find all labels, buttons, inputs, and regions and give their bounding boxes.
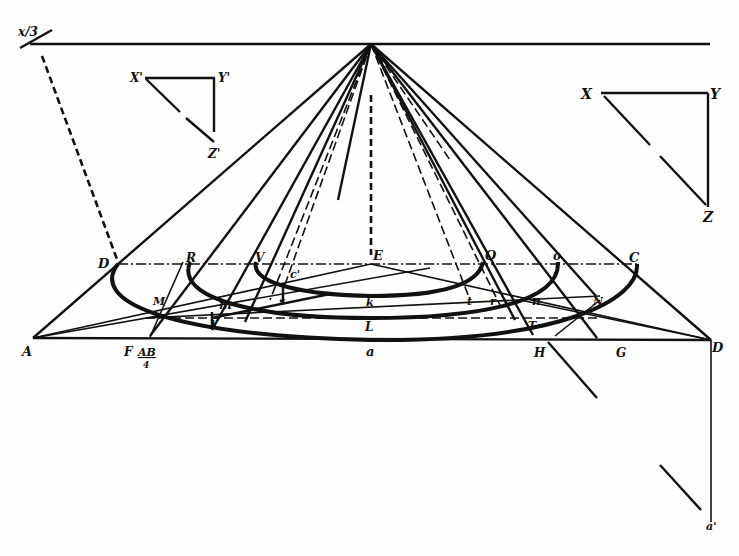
label-R: R bbox=[185, 251, 196, 265]
label-4: 4 bbox=[143, 360, 149, 370]
label-T: T bbox=[528, 319, 537, 332]
label-Y-inner: Y bbox=[210, 318, 219, 331]
label-C: C bbox=[629, 250, 640, 265]
label-V: V bbox=[255, 251, 266, 265]
line-H-down bbox=[548, 342, 597, 398]
right-triangle bbox=[601, 93, 708, 207]
label-G: G bbox=[616, 346, 626, 360]
diagram-svg: x/3 X' Y' Z' X Y Z D R V c' E O o C M m … bbox=[0, 0, 739, 556]
label-H: H bbox=[533, 346, 546, 360]
label-E: E bbox=[372, 248, 384, 263]
label-M: M bbox=[152, 295, 166, 308]
label-o: o bbox=[553, 249, 561, 263]
label-Z: Z bbox=[702, 209, 714, 225]
label-a-prime: a' bbox=[706, 520, 717, 533]
label-D-left: D bbox=[97, 256, 110, 271]
label-k: k bbox=[366, 296, 374, 309]
left-triangle bbox=[145, 78, 215, 142]
perspective-diagram: x/3 X' Y' Z' X Y Z D R V c' E O o C M m … bbox=[0, 0, 739, 556]
label-s: s bbox=[279, 295, 285, 308]
label-Y-prime: Y' bbox=[218, 71, 230, 85]
label-c-prime: c' bbox=[290, 268, 300, 281]
line-D-diag bbox=[520, 300, 711, 340]
label-X-prime: X' bbox=[129, 71, 143, 85]
label-t: t bbox=[467, 295, 472, 308]
label-m: m bbox=[219, 298, 232, 312]
label-O: O bbox=[485, 248, 497, 263]
label-N: N bbox=[592, 295, 604, 308]
middle-ellipse-front bbox=[188, 262, 558, 318]
label-Y: Y bbox=[710, 86, 722, 102]
label-X: X bbox=[580, 86, 593, 102]
label-A: A bbox=[20, 344, 32, 359]
label-L: L bbox=[364, 320, 373, 334]
line-lower-right bbox=[660, 465, 701, 510]
label-AB: AB bbox=[137, 346, 156, 359]
label-a: a bbox=[366, 344, 374, 359]
label-D-right: D bbox=[711, 340, 724, 355]
label-n: n bbox=[532, 294, 541, 308]
label-F: F bbox=[123, 345, 134, 359]
label-Z-prime: Z' bbox=[207, 147, 220, 161]
label-horizon: x/3 bbox=[17, 25, 38, 39]
dashed-line-left bbox=[42, 56, 118, 262]
